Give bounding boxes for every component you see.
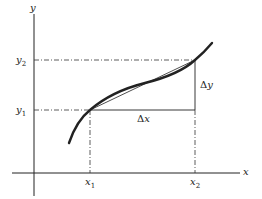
secant-line xyxy=(90,60,195,110)
diagram-canvas xyxy=(0,0,262,199)
secant-diagram: y x y2 y1 x1 x2 Δx Δy xyxy=(0,0,262,199)
y-axis-label: y xyxy=(30,3,36,13)
x1-label: x1 xyxy=(85,177,95,190)
y2-label: y2 xyxy=(16,55,26,68)
delta-y-label: Δy xyxy=(200,80,213,90)
y1-label: y1 xyxy=(16,105,26,118)
x-axis-label: x xyxy=(243,167,249,177)
delta-x-label: Δx xyxy=(137,114,150,124)
function-curve xyxy=(69,43,212,143)
x2-label: x2 xyxy=(190,177,200,190)
